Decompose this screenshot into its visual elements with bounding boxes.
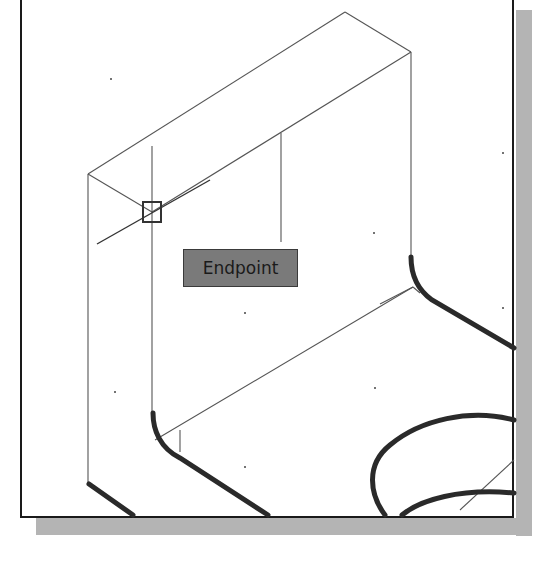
grid-dots	[110, 78, 504, 468]
osnap-tooltip: Endpoint	[183, 249, 298, 287]
endpoint-snap-marker-icon	[142, 201, 162, 223]
wireframe-thin-edges	[88, 12, 514, 510]
wireframe-thick-edges	[89, 257, 514, 515]
